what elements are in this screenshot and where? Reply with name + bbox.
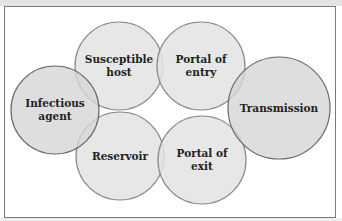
chain-of-infection-diagram: Susceptible host Portal of entry Reservo… — [0, 0, 342, 221]
portal-of-exit-label-line1: Portal of — [177, 147, 229, 159]
infectious-agent-label-line2: agent — [38, 110, 71, 122]
portal-of-exit-label-line2: exit — [191, 160, 213, 172]
node-infectious-agent: Infectious agent — [11, 66, 99, 154]
node-transmission: Transmission — [228, 57, 330, 159]
transmission-label: Transmission — [240, 102, 319, 114]
infectious-agent-label-line1: Infectious — [25, 97, 85, 109]
susceptible-host-label-line1: Susceptible — [85, 53, 154, 65]
reservoir-label: Reservoir — [92, 150, 149, 162]
portal-of-entry-label-line1: Portal of — [176, 53, 228, 65]
susceptible-host-label-line2: host — [106, 66, 132, 78]
portal-of-entry-label-line2: entry — [186, 66, 218, 78]
